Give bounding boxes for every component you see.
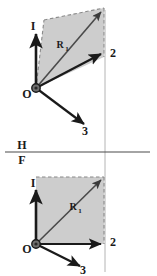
bottom-view-group: I 2 3 O R 1 — [22, 176, 116, 276]
projection-diagram: I 2 3 O R 1 H F — [0, 0, 157, 276]
bottom-view-origin-inner-dot — [34, 242, 37, 245]
top-view-axis-3-label: 3 — [82, 124, 88, 138]
bottom-view-resultant-label: R — [69, 201, 77, 212]
bottom-view-origin-label: O — [22, 242, 31, 256]
top-view-resultant-label: R — [56, 39, 64, 50]
top-view-resultant-subscript: 1 — [65, 45, 69, 53]
top-view-origin-label: O — [22, 87, 31, 101]
bottom-view-axis-3-arrow — [36, 244, 80, 266]
top-view-axis-1-label: I — [31, 19, 36, 33]
top-view-axis-3-arrow — [36, 88, 84, 124]
ground-line-f-label: F — [18, 153, 25, 167]
ground-line-group: H F — [5, 138, 150, 167]
bottom-view-axis-1-label: I — [31, 176, 36, 190]
bottom-view-axis-3-label: 3 — [80, 263, 86, 276]
top-view-axis-2-label: 2 — [110, 46, 116, 60]
ground-line-h-label: H — [17, 138, 27, 152]
bottom-view-axis-2-label: 2 — [110, 235, 116, 249]
top-view-origin-inner-dot — [34, 86, 37, 89]
bottom-view-resultant-subscript: 1 — [78, 207, 82, 215]
